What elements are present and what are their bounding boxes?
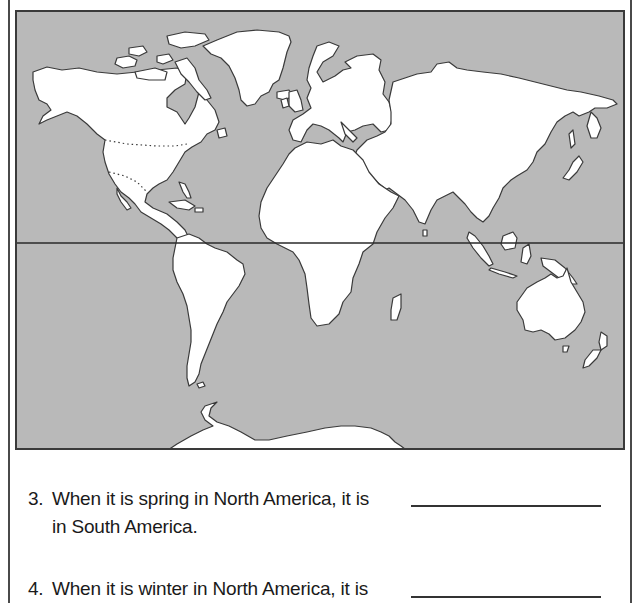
arctic-island	[129, 46, 147, 56]
sulawesi	[521, 244, 531, 264]
sri-lanka	[423, 230, 427, 236]
question-4: 4.When it is winter in North America, it…	[28, 578, 368, 600]
tasmania	[563, 346, 569, 352]
question-3-answer-blank[interactable]	[411, 505, 601, 507]
great-britain	[289, 90, 303, 112]
south-america	[173, 234, 245, 386]
question-3: 3.When it is spring in North America, it…	[28, 488, 369, 510]
question-3-text: When it is spring in North America, it i…	[52, 488, 369, 509]
cuba	[169, 200, 195, 210]
question-4-number: 4.	[28, 578, 52, 600]
world-map-graphic	[17, 12, 623, 448]
question-4-text: When it is winter in North America, it i…	[52, 578, 368, 599]
question-4-answer-blank[interactable]	[411, 596, 601, 598]
kamchatka	[587, 112, 601, 138]
new-zealand-south	[583, 350, 601, 368]
antarctica	[165, 402, 409, 448]
arctic-island	[217, 128, 227, 138]
hispaniola	[195, 208, 203, 212]
madagascar	[391, 294, 401, 320]
arctic-island	[135, 68, 167, 80]
arctic-island	[115, 56, 137, 68]
ireland	[281, 98, 289, 108]
java	[489, 268, 517, 278]
falkland-islands	[197, 382, 205, 388]
europe	[289, 42, 393, 142]
north-america	[33, 67, 219, 242]
borneo	[501, 232, 517, 250]
new-zealand-north	[599, 332, 607, 350]
florida	[179, 182, 191, 198]
page-border-left	[8, 0, 10, 603]
sumatra	[467, 232, 493, 266]
world-map	[15, 10, 625, 450]
australia	[517, 268, 585, 340]
question-3-number: 3.	[28, 488, 52, 510]
page-border-right	[630, 0, 632, 603]
japan	[563, 156, 583, 180]
sakhalin	[569, 130, 575, 148]
arctic-island	[157, 54, 173, 64]
question-3-continuation: in South America.	[52, 516, 198, 538]
